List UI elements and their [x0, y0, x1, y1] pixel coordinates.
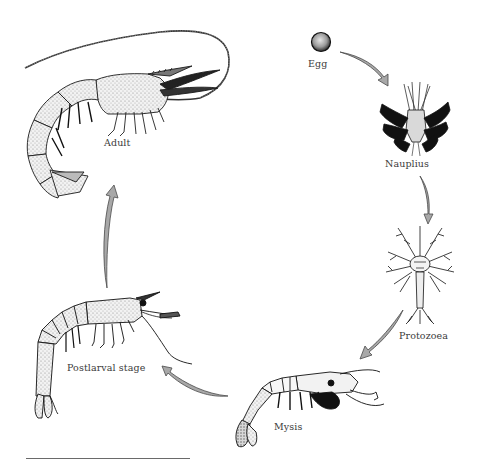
- label-mysis: Mysis: [274, 421, 302, 432]
- protozoea-illustration: [386, 226, 454, 324]
- label-protozoea: Protozoea: [399, 330, 448, 341]
- label-egg: Egg: [308, 58, 327, 69]
- label-postlarval-stage: Postlarval stage: [67, 362, 145, 373]
- footnote-rule: [26, 458, 190, 459]
- label-adult: Adult: [104, 137, 130, 148]
- arrow-mysis-to-postlarval: [162, 366, 228, 396]
- mysis-illustration: [236, 370, 384, 447]
- nauplius-illustration: [380, 82, 450, 156]
- arrow-protozoea-to-mysis: [360, 310, 403, 359]
- arrow-egg-to-nauplius: [340, 52, 388, 86]
- adult-shrimp-illustration: [25, 31, 229, 198]
- arrow-nauplius-to-protozoea: [420, 176, 433, 224]
- label-nauplius: Nauplius: [385, 158, 429, 169]
- egg-illustration: [312, 33, 331, 52]
- diagram-canvas: [0, 0, 484, 471]
- postlarval-illustration: [35, 292, 192, 418]
- arrow-postlarval-to-adult: [104, 185, 118, 288]
- shrimp-life-cycle-diagram: Adult Egg Nauplius Protozoea Mysis Postl…: [0, 0, 484, 471]
